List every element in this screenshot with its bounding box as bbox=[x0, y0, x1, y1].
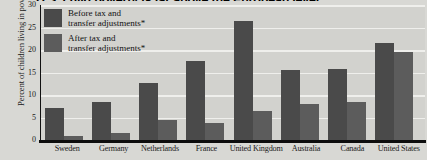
x-axis-tick-label: Germany bbox=[90, 144, 136, 154]
x-axis-tick-label: Australia bbox=[283, 144, 329, 154]
bar-group bbox=[375, 5, 422, 141]
legend-label: Before tax andtransfer adjustments* bbox=[68, 9, 145, 28]
bar-group bbox=[234, 5, 281, 141]
legend-item: After tax andtransfer adjustments* bbox=[44, 34, 194, 53]
bar-after-tax bbox=[394, 52, 413, 141]
x-axis-tick-label: Canada bbox=[329, 144, 375, 154]
bar-before-tax bbox=[139, 83, 158, 141]
y-axis-tick-label: 10 bbox=[14, 91, 36, 99]
chart-legend: Before tax andtransfer adjustments*After… bbox=[44, 9, 194, 59]
x-axis-tick-label: Netherlands bbox=[137, 144, 183, 154]
x-axis-tick-label: Sweden bbox=[44, 144, 90, 154]
x-axis-labels: SwedenGermanyNetherlandsFranceUnited Kin… bbox=[40, 144, 425, 154]
bar-after-tax bbox=[347, 102, 366, 141]
bar-after-tax bbox=[205, 123, 224, 141]
legend-swatch bbox=[44, 34, 62, 52]
legend-swatch bbox=[44, 9, 62, 27]
y-axis-ticks: 302520151050 bbox=[14, 0, 38, 160]
x-axis-tick-label: France bbox=[183, 144, 229, 154]
legend-item: Before tax andtransfer adjustments* bbox=[44, 9, 194, 28]
bar-after-tax bbox=[300, 104, 319, 141]
x-axis-tick-label: United States bbox=[376, 144, 422, 154]
bar-before-tax bbox=[375, 43, 394, 141]
legend-label-line2: transfer adjustments* bbox=[68, 19, 145, 29]
bar-after-tax bbox=[253, 111, 272, 141]
y-axis-tick-label: 25 bbox=[14, 24, 36, 32]
y-axis-tick-label: 20 bbox=[14, 46, 36, 54]
y-axis-tick-label: 5 bbox=[14, 114, 36, 122]
bar-before-tax bbox=[234, 21, 253, 141]
legend-label: After tax andtransfer adjustments* bbox=[68, 34, 145, 53]
bar-before-tax bbox=[186, 61, 205, 141]
bar-before-tax bbox=[281, 70, 300, 141]
legend-label-line2: transfer adjustments* bbox=[68, 44, 145, 54]
chart-title: U.S. child poverty is far above the Euro… bbox=[36, 0, 319, 1]
bar-before-tax bbox=[45, 108, 64, 141]
y-axis-tick-label: 30 bbox=[14, 1, 36, 9]
bar-group bbox=[281, 5, 328, 141]
y-axis-tick-label: 15 bbox=[14, 69, 36, 77]
bar-before-tax bbox=[328, 69, 347, 141]
bar-after-tax bbox=[158, 120, 177, 141]
x-axis-tick-label: United Kingdom bbox=[230, 144, 283, 154]
bar-group bbox=[328, 5, 375, 141]
y-axis-tick-label: 0 bbox=[14, 136, 36, 144]
x-axis-line bbox=[39, 140, 426, 143]
bar-before-tax bbox=[92, 102, 111, 141]
